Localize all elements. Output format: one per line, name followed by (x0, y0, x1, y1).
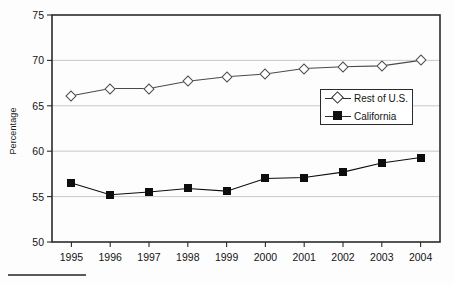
legend-label-california: California (354, 111, 396, 122)
data-point-california-2001 (300, 174, 308, 182)
chart-plot-area (0, 0, 454, 284)
chart-legend: Rest of U.S. California (320, 89, 413, 125)
x-tick-1997: 1997 (127, 252, 171, 263)
x-tick-2000: 2000 (243, 252, 287, 263)
x-tick-2002: 2002 (321, 252, 365, 263)
chart-figure: Percentage 505560657075 1995199619971998… (0, 0, 454, 284)
data-point-california-1996 (106, 191, 114, 199)
open-diamond-icon (331, 91, 344, 104)
data-point-california-1998 (184, 184, 192, 192)
legend-item-california[interactable]: California (321, 108, 414, 126)
y-tick-75: 75 (18, 10, 44, 20)
data-point-california-2002 (339, 168, 347, 176)
y-tick-60: 60 (18, 146, 44, 156)
x-tick-2001: 2001 (282, 252, 326, 263)
legend-label-rest-of-us: Rest of U.S. (354, 93, 408, 104)
x-tick-1995: 1995 (49, 252, 93, 263)
x-tick-2004: 2004 (399, 252, 443, 263)
data-point-california-2004 (417, 154, 425, 162)
data-point-california-2000 (261, 174, 269, 182)
y-tick-70: 70 (18, 55, 44, 65)
y-tick-65: 65 (18, 101, 44, 111)
y-tick-55: 55 (18, 192, 44, 202)
x-tick-1996: 1996 (88, 252, 132, 263)
x-tick-1998: 1998 (166, 252, 210, 263)
data-point-california-1995 (67, 179, 75, 187)
legend-item-rest-of-us[interactable]: Rest of U.S. (321, 90, 414, 108)
y-axis-title: Percentage (8, 96, 18, 166)
footnote-separator (8, 274, 86, 276)
filled-square-icon (333, 111, 342, 120)
data-point-california-1999 (223, 187, 231, 195)
y-tick-50: 50 (18, 237, 44, 247)
x-tick-2003: 2003 (360, 252, 404, 263)
data-point-california-2003 (378, 159, 386, 167)
data-point-california-1997 (145, 188, 153, 196)
x-tick-1999: 1999 (205, 252, 249, 263)
